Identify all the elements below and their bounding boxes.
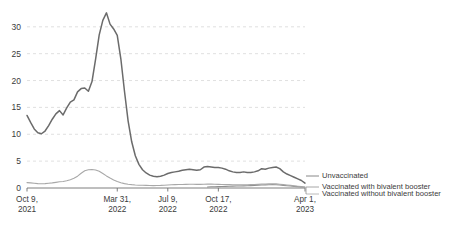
y-tick-label-25: 25 [12,49,22,59]
x-tick-label-line1-4: Apr 1, [294,195,316,204]
x-tick-label-line1-0: Oct 9, [16,195,38,204]
x-axis-tick-labels: Oct 9,2021Mar 31,2022Jul 9,2022Oct 17,20… [16,195,316,214]
y-axis-tick-labels: 051015202530 [12,22,22,193]
x-tick-label-line2-1: 2022 [108,205,127,214]
axis-lines-group [27,188,305,192]
y-tick-label-10: 10 [12,129,22,139]
x-tick-label-line1-1: Mar 31, [103,195,131,204]
gridlines-group [27,27,305,161]
y-tick-label-30: 30 [12,22,22,32]
series-line-0 [27,13,305,183]
y-tick-label-0: 0 [16,183,21,193]
x-tick-label-line2-4: 2023 [296,205,315,214]
chart-legend: UnvaccinatedVaccinated with bivalent boo… [306,171,441,198]
legend-label-2: Vaccinated without bivalent booster [322,189,441,198]
x-tick-label-line2-0: 2021 [18,205,37,214]
chart-container: 051015202530 Oct 9,2021Mar 31,2022Jul 9,… [0,0,456,232]
y-tick-label-20: 20 [12,76,22,86]
legend-label-0: Unvaccinated [322,171,368,180]
x-tick-label-line1-2: Jul 9, [158,195,178,204]
y-tick-label-15: 15 [12,102,22,112]
y-tick-label-5: 5 [16,156,21,166]
x-tick-label-line1-3: Oct 17, [205,195,231,204]
series-line-2 [27,169,305,187]
x-tick-label-line2-3: 2022 [209,205,228,214]
line-chart: 051015202530 Oct 9,2021Mar 31,2022Jul 9,… [0,0,456,232]
x-tick-label-line2-2: 2022 [159,205,178,214]
